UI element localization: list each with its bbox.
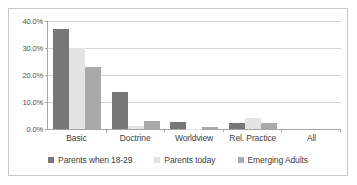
x-axis-tick-label: Doctrine (106, 133, 165, 149)
y-axis-tick-mark (45, 129, 48, 130)
bar-group (282, 21, 341, 129)
legend-item[interactable]: Emerging Adults (238, 155, 308, 165)
bar[interactable] (202, 127, 218, 129)
chart-legend: Parents when 18-29Parents todayEmerging … (9, 151, 347, 169)
plot-wrapper: 0.0%10.0%20.0%30.0%40.0% (9, 9, 347, 141)
legend-label: Emerging Adults (248, 155, 308, 165)
x-axis: BasicDoctrineWorldviewRel. PracticeAll (47, 133, 341, 149)
plot-area (47, 21, 341, 130)
y-axis-tick-label: 30.0% (22, 44, 43, 53)
bar[interactable] (69, 48, 85, 129)
bar-group (165, 21, 224, 129)
y-axis-tick-label: 20.0% (22, 71, 43, 80)
bar-group (107, 21, 166, 129)
x-axis-tick-label: Worldview (165, 133, 224, 149)
y-axis-tick-label: 0.0% (27, 125, 44, 134)
bar[interactable] (85, 67, 101, 129)
bar-group (224, 21, 283, 129)
bar[interactable] (53, 29, 69, 129)
bar[interactable] (261, 123, 277, 129)
legend-label: Parents today (164, 155, 215, 165)
bar[interactable] (229, 123, 245, 129)
legend-item[interactable]: Parents when 18-29 (48, 155, 132, 165)
bar[interactable] (144, 121, 160, 129)
bar[interactable] (128, 126, 144, 129)
legend-swatch-icon (154, 157, 160, 163)
bar[interactable] (170, 122, 186, 129)
y-axis-tick-label: 10.0% (22, 98, 43, 107)
legend-swatch-icon (48, 157, 54, 163)
legend-swatch-icon (238, 157, 244, 163)
legend-label: Parents when 18-29 (58, 155, 132, 165)
bar[interactable] (112, 92, 128, 129)
bars-layer (48, 21, 341, 129)
y-axis: 0.0%10.0%20.0%30.0%40.0% (9, 9, 47, 141)
chart-container: 0.0%10.0%20.0%30.0%40.0% BasicDoctrineWo… (8, 8, 348, 176)
y-axis-tick-label: 40.0% (22, 17, 43, 26)
x-axis-tick-label: Basic (47, 133, 106, 149)
bar-group (48, 21, 107, 129)
x-axis-tick-label: All (282, 133, 341, 149)
bar[interactable] (245, 118, 261, 129)
x-axis-tick-label: Rel. Practice (223, 133, 282, 149)
legend-item[interactable]: Parents today (154, 155, 215, 165)
